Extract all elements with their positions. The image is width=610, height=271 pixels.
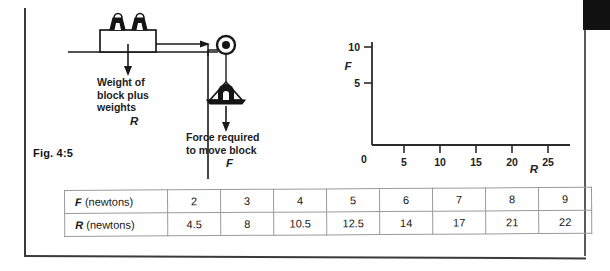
- x-tick-label-20: 20: [506, 156, 518, 168]
- y-tick-label-10: 10: [348, 41, 360, 53]
- cell-R-1: 4.5: [168, 213, 221, 236]
- slotted-weight-right: [132, 14, 147, 31]
- x-axis-title-R: R: [530, 163, 539, 173]
- measurements-table-wrapper: F (newtons) 2 3 4 5 6 7 8 9 R (newtons) …: [64, 187, 592, 237]
- force-label-line1: Force required: [186, 131, 260, 144]
- pulley-wheel: [217, 36, 235, 54]
- page-corner-black-marker: [583, 0, 610, 30]
- figure-caption: Fig. 4:5: [33, 147, 73, 159]
- row-header-F: F (newtons): [65, 190, 168, 214]
- table-row: R (newtons) 4.5 8 10.5 12.5 14 17 21 22: [65, 210, 592, 236]
- x-tick-label-15: 15: [470, 156, 482, 168]
- y-tick-label-5: 5: [354, 77, 360, 89]
- cell-F-6: 7: [432, 188, 485, 211]
- cell-F-5: 6: [379, 188, 432, 211]
- x-tick-label-5: 5: [401, 156, 407, 168]
- cell-R-4: 12.5: [327, 212, 380, 235]
- table-row: F (newtons) 2 3 4 5 6 7 8 9: [65, 187, 592, 213]
- row-header-R: R (newtons): [65, 213, 168, 237]
- cell-R-2: 8: [221, 212, 274, 235]
- cell-F-1: 2: [168, 190, 221, 213]
- weight-label-line1: Weight of: [97, 76, 149, 89]
- force-symbol-F: F: [226, 157, 233, 170]
- force-label-line2: to move block: [186, 144, 260, 157]
- cell-R-7: 21: [486, 211, 539, 234]
- weight-symbol-R: R: [130, 115, 138, 128]
- y-axis-title-F: F: [344, 60, 352, 72]
- origin-tick-label-0: 0: [361, 153, 367, 165]
- row-header-F-unit: (newtons): [82, 196, 133, 208]
- x-tick-label-25: 25: [542, 156, 554, 168]
- cell-R-8: 22: [539, 210, 592, 233]
- measurements-table: F (newtons) 2 3 4 5 6 7 8 9 R (newtons) …: [64, 187, 592, 237]
- hanging-weight-pan: [207, 82, 245, 104]
- row-header-R-symbol: R: [75, 219, 83, 231]
- row-header-R-unit: (newtons): [83, 219, 134, 231]
- page-frame-left-edge: [24, 8, 26, 256]
- apparatus-diagram: [40, 4, 310, 179]
- weight-arrow-head: [124, 66, 132, 76]
- cell-F-3: 4: [273, 189, 326, 212]
- cell-F-4: 5: [326, 189, 379, 212]
- force-label-block: Force required to move block: [186, 131, 260, 156]
- blank-graph-axes: 10 5 0 5 10 15 20 25 F R: [330, 18, 580, 173]
- cell-R-5: 14: [380, 211, 433, 234]
- cell-R-6: 17: [433, 211, 486, 234]
- cell-F-8: 9: [538, 187, 591, 210]
- weight-label-line3: weights: [97, 101, 149, 114]
- cell-F-2: 3: [221, 189, 274, 212]
- cell-R-3: 10.5: [274, 212, 327, 235]
- page-frame-bottom-edge: [24, 255, 586, 259]
- slotted-weight-left: [110, 14, 125, 31]
- weight-label-block: Weight of block plus weights: [97, 76, 149, 114]
- x-tick-label-10: 10: [434, 156, 446, 168]
- cell-F-7: 8: [485, 188, 538, 211]
- weight-label-line2: block plus: [97, 89, 149, 102]
- page-canvas: Weight of block plus weights R Force req…: [0, 0, 610, 271]
